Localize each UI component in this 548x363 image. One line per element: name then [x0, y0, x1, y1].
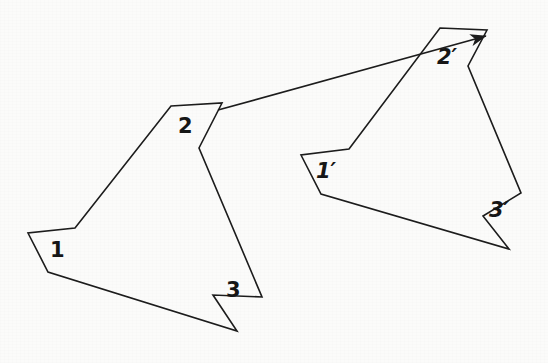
geometry-diagram — [0, 0, 548, 363]
image-polygon — [301, 28, 521, 249]
figure-canvas: 1231′2′3′ — [0, 0, 548, 363]
label-3: 3 — [226, 280, 241, 301]
label-1: 1 — [50, 240, 65, 261]
label-1p: 1′ — [316, 161, 336, 182]
label-2: 2 — [178, 116, 193, 137]
label-3p: 3′ — [489, 200, 509, 221]
label-2p: 2′ — [437, 47, 457, 68]
